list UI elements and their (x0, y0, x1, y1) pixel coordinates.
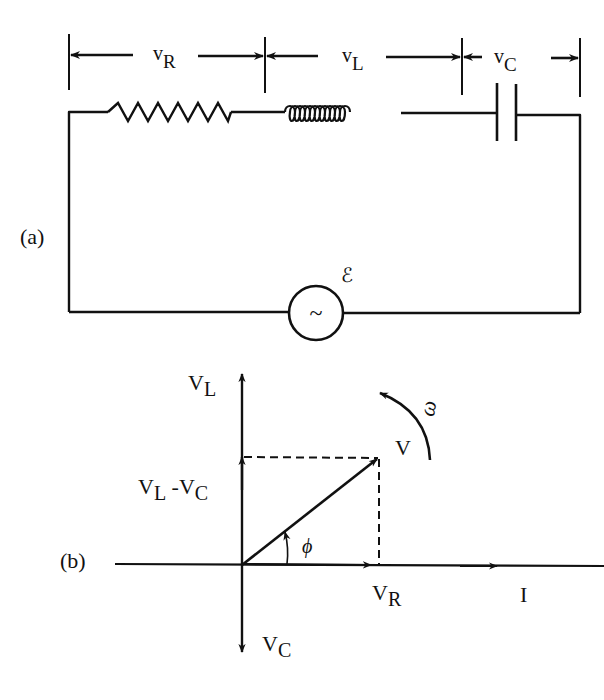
label-vl: vL (342, 44, 364, 74)
phasor-diagram: VL VL -VC VC VR I V ϕ ω (b) (60, 370, 604, 661)
label-vr-axis: VR (372, 580, 402, 610)
inductor (285, 106, 350, 121)
dimension-vc (464, 57, 578, 58)
label-phi: ϕ (302, 535, 312, 558)
label-vc-axis: VC (262, 631, 291, 661)
label-vl-minus-vc: VL -VC (138, 474, 208, 504)
label-omega: ω (414, 398, 441, 418)
circuit-wires (69, 112, 580, 313)
part-b-label: (b) (60, 548, 86, 573)
label-voltage: V (395, 435, 411, 460)
part-a-label: (a) (20, 224, 44, 249)
resistor (108, 103, 231, 121)
circuit-diagram: vR vL vC (20, 34, 580, 340)
phase-angle-arc (285, 532, 288, 564)
emf-label: ℰ (341, 264, 353, 286)
label-vc: vC (494, 45, 517, 75)
ac-source: ~ (289, 286, 343, 340)
label-current: I (520, 582, 527, 607)
label-vl-axis: VL (188, 370, 216, 400)
label-vr: vR (153, 42, 176, 72)
rlc-figure: vR vL vC (0, 0, 604, 700)
vr-phasor (242, 564, 371, 565)
capacitor (497, 83, 516, 141)
sine-wave-icon: ~ (310, 300, 323, 326)
